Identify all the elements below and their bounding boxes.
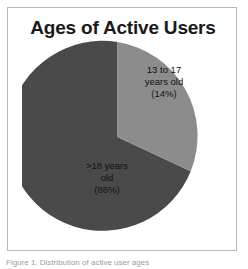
- pie-label-teens-line2: years old: [127, 76, 201, 88]
- figure-caption: Figure 1. Distribution of active user ag…: [6, 257, 242, 269]
- pie-label-adults: >18 years old (86%): [65, 160, 149, 196]
- pie-chart: 13 to 17 years old (14%) >18 years old (…: [22, 37, 213, 237]
- figure-container: Ages of Active Users 13 to 17 years old …: [0, 0, 248, 269]
- chart-frame: Ages of Active Users 13 to 17 years old …: [7, 7, 237, 251]
- chart-title: Ages of Active Users: [8, 17, 237, 39]
- pie-label-adults-line2: old: [65, 172, 149, 184]
- pie-label-teens: 13 to 17 years old (14%): [127, 64, 201, 100]
- pie-label-adults-percent: (86%): [65, 184, 149, 196]
- pie-label-adults-line1: >18 years: [65, 160, 149, 172]
- pie-label-teens-line1: 13 to 17: [127, 64, 201, 76]
- pie-label-teens-percent: (14%): [127, 88, 201, 100]
